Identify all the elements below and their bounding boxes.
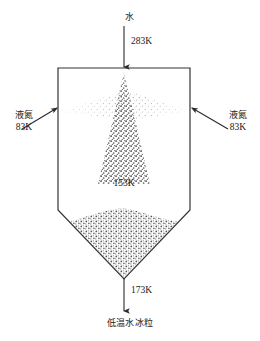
left-nitrogen-label: 液氮: [4, 110, 44, 120]
ice-particle-bed: [70, 208, 178, 278]
diagram-canvas: [0, 0, 260, 341]
right-nitrogen-temperature: 83K: [216, 122, 260, 133]
water-inlet-temperature: 283K: [131, 36, 171, 47]
chamber-core-temperature: 153K: [104, 178, 144, 189]
water-inlet-label: 水: [110, 12, 150, 22]
left-nitrogen-temperature: 83K: [4, 122, 44, 133]
process-diagram: 水 283K 液氮 83K 液氮 83K 153K 173K 低温水冰粒: [0, 0, 260, 341]
right-nitrogen-label: 液氮: [216, 110, 260, 120]
product-outlet-temperature: 173K: [131, 285, 171, 296]
product-label: 低温水冰粒: [78, 318, 182, 328]
